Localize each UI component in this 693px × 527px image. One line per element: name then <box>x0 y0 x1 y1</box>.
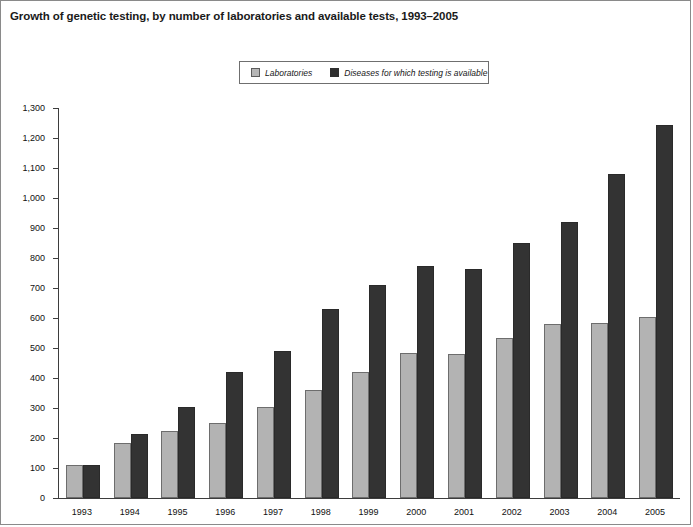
x-axis-tick-label: 1996 <box>201 507 249 517</box>
legend-label-laboratories: Laboratories <box>265 68 312 78</box>
x-axis-tick-label: 1994 <box>106 507 154 517</box>
x-axis-tick-label: 1995 <box>154 507 202 517</box>
y-axis-tick-label: 1,000 <box>22 193 45 203</box>
x-axis-tick-label: 2000 <box>392 507 440 517</box>
y-axis-tick-label: 600 <box>30 313 45 323</box>
bar-diseases <box>274 351 291 498</box>
bar-laboratories <box>66 465 83 498</box>
bar-group <box>107 108 155 498</box>
bar-laboratories <box>400 353 417 499</box>
y-axis-tick-label: 900 <box>30 223 45 233</box>
bar-group <box>441 108 489 498</box>
bar-diseases <box>417 266 434 499</box>
bar-laboratories <box>639 317 656 499</box>
bar-laboratories <box>257 407 274 499</box>
y-axis-tick-label: 300 <box>30 403 45 413</box>
x-axis-tick-label: 2002 <box>488 507 536 517</box>
bar-laboratories <box>161 431 178 499</box>
bar-group <box>250 108 298 498</box>
bar-laboratories <box>114 443 131 499</box>
x-axis-line <box>58 498 680 499</box>
bar-diseases <box>656 125 673 499</box>
bar-group <box>202 108 250 498</box>
y-axis-tick <box>53 348 58 349</box>
y-axis-tick <box>53 408 58 409</box>
x-axis-tick-label: 1998 <box>297 507 345 517</box>
legend-item-laboratories: Laboratories <box>251 68 312 78</box>
legend-swatch-laboratories-icon <box>251 68 260 77</box>
y-axis-tick <box>53 198 58 199</box>
bar-diseases <box>322 309 339 498</box>
bar-group <box>155 108 203 498</box>
x-axis-tick-label: 1993 <box>58 507 106 517</box>
bars-layer <box>59 108 680 498</box>
legend-label-diseases: Diseases for which testing is available <box>344 68 487 78</box>
bar-group <box>393 108 441 498</box>
bar-group <box>537 108 585 498</box>
y-axis-tick-label: 1,200 <box>22 133 45 143</box>
bar-laboratories <box>496 338 513 499</box>
bar-diseases <box>226 372 243 498</box>
x-axis-tick-label: 2001 <box>440 507 488 517</box>
bar-diseases <box>131 434 148 499</box>
bar-laboratories <box>352 372 369 498</box>
bar-diseases <box>465 269 482 499</box>
x-axis-tick-label: 1997 <box>249 507 297 517</box>
bar-diseases <box>369 285 386 498</box>
y-axis-tick <box>53 378 58 379</box>
x-axis-tick-label: 2004 <box>583 507 631 517</box>
chart-figure: Growth of genetic testing, by number of … <box>0 0 691 525</box>
y-axis-tick-label: 500 <box>30 343 45 353</box>
bar-laboratories <box>544 324 561 498</box>
y-axis-tick-label: 1,300 <box>22 103 45 113</box>
legend-swatch-diseases-icon <box>330 68 339 77</box>
y-axis-tick <box>53 288 58 289</box>
y-axis-tick <box>53 318 58 319</box>
y-axis-tick-label: 700 <box>30 283 45 293</box>
chart-title: Growth of genetic testing, by number of … <box>10 10 458 22</box>
bar-group <box>489 108 537 498</box>
bar-laboratories <box>305 390 322 498</box>
y-axis-tick <box>53 168 58 169</box>
bar-group <box>584 108 632 498</box>
x-axis-tick-label: 2003 <box>536 507 584 517</box>
bar-diseases <box>608 174 625 498</box>
y-axis-tick <box>53 498 58 499</box>
y-axis-tick <box>53 228 58 229</box>
bar-diseases <box>83 465 100 498</box>
bar-group <box>298 108 346 498</box>
y-axis-tick <box>53 468 58 469</box>
y-axis-tick-label: 0 <box>40 493 45 503</box>
y-axis-tick-label: 200 <box>30 433 45 443</box>
bar-group <box>59 108 107 498</box>
y-axis-tick-label: 1,100 <box>22 163 45 173</box>
y-axis-tick <box>53 138 58 139</box>
y-axis-tick <box>53 438 58 439</box>
bar-diseases <box>513 243 530 498</box>
bar-diseases <box>561 222 578 498</box>
x-axis-tick-label: 2005 <box>631 507 679 517</box>
x-axis-tick-label: 1999 <box>345 507 393 517</box>
bar-laboratories <box>209 423 226 498</box>
y-axis-tick <box>53 258 58 259</box>
plot-area: 01002003004005006007008009001,0001,1001,… <box>58 108 680 498</box>
legend-item-diseases: Diseases for which testing is available <box>330 68 487 78</box>
bar-group <box>346 108 394 498</box>
y-axis-tick-label: 100 <box>30 463 45 473</box>
bar-laboratories <box>448 354 465 498</box>
y-axis-tick <box>53 108 58 109</box>
bar-diseases <box>178 407 195 499</box>
bar-group <box>632 108 680 498</box>
bar-laboratories <box>591 323 608 498</box>
chart-legend: Laboratories Diseases for which testing … <box>239 61 489 84</box>
y-axis-tick-label: 400 <box>30 373 45 383</box>
y-axis-tick-label: 800 <box>30 253 45 263</box>
